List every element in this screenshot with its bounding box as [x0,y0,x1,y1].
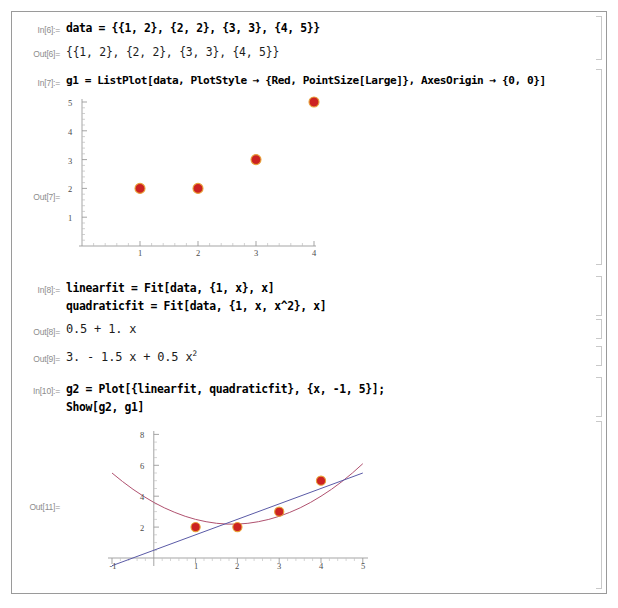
listplot-xtick-2: 2 [192,248,204,258]
notebook-cell-7[interactable]: In[7]:= g1 = ListPlot[data, PlotStyle → … [12,64,606,269]
input-code-6[interactable]: data = {{1, 2}, {2, 2}, {3, 3}, {4, 5}} [66,21,320,35]
showplot-ytick-4: 4 [136,492,148,502]
cell-bracket-6[interactable] [596,16,602,60]
out-label-9: Out[9]= [14,354,60,364]
input-code-8-line1[interactable]: linearfit = Fit[data, {1, x}, x] [66,281,274,295]
listplot-ytick-3: 3 [64,156,76,166]
listplot-graphic[interactable]: 1 2 3 4 5 1 2 3 4 [66,96,326,261]
input-code-8-line2[interactable]: quadraticfit = Fit[data, {1, x, x^2}, x] [66,299,326,313]
out-label-8: Out[8]= [14,327,60,337]
listplot-ytick-1: 1 [64,213,76,223]
showplot-xtick-4: 4 [315,561,327,571]
cell-bracket-8[interactable] [596,276,602,316]
output-code-9-body: 3. - 1.5 x + 0.5 x [66,350,192,364]
showplot-xtick-3: 3 [273,561,285,571]
out-label-7: Out[7]= [14,192,60,202]
listplot-x-major-ticks [140,241,314,246]
showplot-graphic[interactable]: 2 4 6 8 -1 1 2 3 4 5 [66,421,386,591]
listplot-data-points [135,97,319,193]
notebook-cell-6[interactable]: In[6]:= data = {{1, 2}, {2, 2}, {3, 3}, … [12,12,606,64]
showplot-xtick-2: 2 [231,561,243,571]
showplot-ytick-8: 8 [136,430,148,440]
input-code-10-line1[interactable]: g2 = Plot[{linearfit, quadraticfit}, {x,… [66,382,385,396]
cell-bracket-7[interactable] [596,69,602,265]
in-label-7: In[7]:= [18,78,60,88]
out-label-6: Out[6]= [14,49,60,59]
in-label-6: In[6]:= [18,25,60,35]
in-label-10: In[10]:= [18,386,60,396]
out-label-11: Out[11]= [14,502,60,512]
listplot-ytick-4: 4 [64,127,76,137]
showplot-xtick-1: 1 [190,561,202,571]
listplot-svg [66,96,326,261]
output-code-9: 3. - 1.5 x + 0.5 x2 [66,349,197,364]
showplot-data-points [191,476,326,532]
showplot-quadratic-curve [112,464,363,524]
listplot-ytick-5: 5 [64,98,76,108]
cell-bracket-out8[interactable] [596,319,602,339]
listplot-ytick-2: 2 [64,184,76,194]
showplot-ytick-6: 6 [136,461,148,471]
listplot-xtick-3: 3 [250,248,262,258]
output-code-6: {{1, 2}, {2, 2}, {3, 3}, {4, 5}} [66,45,279,59]
showplot-ytick-2: 2 [136,523,148,533]
listplot-xtick-4: 4 [308,248,320,258]
output-code-9-exponent: 2 [192,349,196,358]
notebook-document: In[6]:= data = {{1, 2}, {2, 2}, {3, 3}, … [11,11,607,594]
notebook-cell-8[interactable]: In[8]:= linearfit = Fit[data, {1, x}, x]… [12,269,606,369]
showplot-xtick-neg1: -1 [106,561,120,571]
showplot-linear-line [112,473,363,566]
input-code-7[interactable]: g1 = ListPlot[data, PlotStyle → {Red, Po… [66,74,546,87]
notebook-cell-10[interactable]: In[10]:= g2 = Plot[{linearfit, quadratic… [12,369,606,591]
output-code-8: 0.5 + 1. x [66,322,136,336]
input-code-10-line2[interactable]: Show[g2, g1] [66,400,144,414]
showplot-xtick-5: 5 [357,561,369,571]
cell-bracket-out11[interactable] [596,421,602,589]
cell-bracket-10[interactable] [596,377,602,417]
in-label-8: In[8]:= [18,285,60,295]
cell-bracket-out9[interactable] [596,346,602,366]
listplot-xtick-1: 1 [134,248,146,258]
